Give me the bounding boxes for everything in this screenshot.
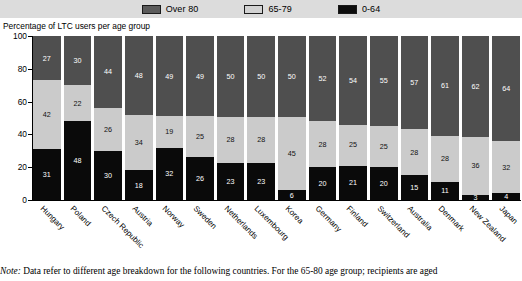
x-tick-label: Australia <box>406 204 434 232</box>
x-tick-label: Korea <box>283 204 304 225</box>
bar-column[interactable]: 502823 <box>247 36 275 200</box>
bar-segment: 28 <box>247 117 275 162</box>
bar-segment: 49 <box>186 36 214 116</box>
bar-segment: 50 <box>278 36 306 117</box>
legend-swatch-0-64 <box>338 5 357 14</box>
legend-swatch-over-80 <box>142 5 161 14</box>
bar-column[interactable]: 491932 <box>156 36 184 200</box>
bar-segment: 27 <box>33 36 61 80</box>
footnote-text: Data refer to different age breakdown fo… <box>23 266 437 276</box>
bar-column[interactable]: 572815 <box>401 36 429 200</box>
bar-segment: 48 <box>125 36 153 115</box>
legend-label-over-80: Over 80 <box>166 5 199 14</box>
legend-label-0-64: 0-64 <box>362 5 380 14</box>
bar-segment: 22 <box>64 85 92 121</box>
x-tick-label: Finland <box>345 204 370 229</box>
bar-segment: 54 <box>339 36 367 125</box>
bar-segment: 3 <box>462 195 490 200</box>
x-axis-labels: HungaryPolandCzech RepublicAustriaNorway… <box>33 202 520 262</box>
legend-label-65-79: 65-79 <box>268 5 292 14</box>
bar-segment: 57 <box>401 36 429 129</box>
bar-segment: 20 <box>370 167 398 200</box>
x-label-cell: Australia <box>401 202 429 262</box>
bar-segment: 20 <box>309 167 337 200</box>
y-tick-label-100: 100 <box>13 32 27 40</box>
bar-segment: 25 <box>339 125 367 166</box>
x-tick-label: Sweden <box>192 204 219 231</box>
x-tick-label: Japan <box>498 204 520 226</box>
bar-segment: 42 <box>33 80 61 149</box>
bar-segment: 23 <box>217 163 245 200</box>
bar-segment: 28 <box>401 129 429 175</box>
bar-column[interactable]: 612811 <box>431 36 459 200</box>
x-tick-label: Poland <box>69 204 93 228</box>
bar-segment: 50 <box>217 36 245 117</box>
legend-item-over-80: Over 80 <box>142 5 199 14</box>
bar-segment: 34 <box>125 115 153 171</box>
bar-column[interactable]: 502823 <box>217 36 245 200</box>
footnote-lead: Note: <box>0 266 21 276</box>
bar-segment: 52 <box>309 36 337 121</box>
bar-column[interactable]: 552520 <box>370 36 398 200</box>
x-tick-label: Hungary <box>38 204 66 232</box>
bar-segment: 61 <box>431 36 459 136</box>
bar-series-container: 2742313022484426304834184919324925265028… <box>33 36 520 200</box>
bar-column[interactable]: 302248 <box>64 36 92 200</box>
legend-swatch-65-79 <box>244 5 263 14</box>
bar-segment: 45 <box>278 117 306 190</box>
bar-segment: 26 <box>186 157 214 200</box>
y-tick-label-80: 80 <box>18 65 27 73</box>
x-label-cell: Sweden <box>186 202 214 262</box>
bar-segment: 6 <box>278 190 306 200</box>
x-label-cell: Hungary <box>33 202 61 262</box>
x-label-cell: New Zealand <box>462 202 490 262</box>
y-axis-title: Percentage of LTC users per age group <box>3 22 150 31</box>
x-label-cell: Luxembourg <box>247 202 275 262</box>
bar-column[interactable]: 64324 <box>492 36 520 200</box>
bar-segment: 4 <box>492 193 520 200</box>
bar-segment: 30 <box>64 36 92 85</box>
x-label-cell: Finland <box>339 202 367 262</box>
bar-column[interactable]: 62363 <box>462 36 490 200</box>
x-tick-label: Norway <box>161 204 187 230</box>
bar-segment: 25 <box>186 116 214 157</box>
bar-column[interactable]: 522820 <box>309 36 337 200</box>
bar-segment: 36 <box>462 137 490 195</box>
bar-segment: 49 <box>156 36 184 116</box>
bar-segment: 26 <box>94 108 122 151</box>
bar-column[interactable]: 442630 <box>94 36 122 200</box>
bar-segment: 25 <box>370 126 398 167</box>
chart-footnote: Note: Data refer to different age breakd… <box>0 266 522 277</box>
x-label-cell: Austria <box>125 202 153 262</box>
y-axis: 020406080100 <box>0 36 32 201</box>
legend-item-0-64: 0-64 <box>338 5 380 14</box>
bar-segment: 30 <box>94 151 122 200</box>
bar-segment: 32 <box>492 141 520 193</box>
bar-segment: 48 <box>64 121 92 200</box>
bar-segment: 28 <box>309 121 337 167</box>
x-label-cell: Poland <box>64 202 92 262</box>
bar-segment: 23 <box>247 163 275 200</box>
legend-item-65-79: 65-79 <box>244 5 292 14</box>
y-tick-label-0: 0 <box>22 196 27 204</box>
bar-segment: 11 <box>431 182 459 200</box>
bar-segment: 55 <box>370 36 398 126</box>
bar-segment: 50 <box>247 36 275 117</box>
bar-column[interactable]: 492526 <box>186 36 214 200</box>
y-tick-label-40: 40 <box>18 130 27 138</box>
x-label-cell: Czech Republic <box>94 202 122 262</box>
x-label-cell: Netherlands <box>217 202 245 262</box>
bar-column[interactable]: 542521 <box>339 36 367 200</box>
bar-column[interactable]: 274231 <box>33 36 61 200</box>
bar-segment: 19 <box>156 116 184 147</box>
y-tick-label-60: 60 <box>18 97 27 105</box>
bar-segment: 31 <box>33 149 61 200</box>
bar-column[interactable]: 483418 <box>125 36 153 200</box>
bar-segment: 44 <box>94 36 122 108</box>
x-tick-label: Austria <box>130 204 154 228</box>
bar-column[interactable]: 50456 <box>278 36 306 200</box>
bar-segment: 62 <box>462 36 490 137</box>
x-label-cell: Germany <box>309 202 337 262</box>
x-label-cell: Japan <box>492 202 520 262</box>
bar-segment: 21 <box>339 166 367 200</box>
